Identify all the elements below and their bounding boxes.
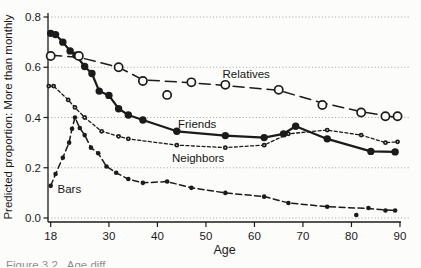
marker-relatives bbox=[318, 101, 326, 109]
marker-friends bbox=[391, 148, 398, 155]
series-label-bars: Bars bbox=[57, 183, 81, 195]
marker-friends bbox=[105, 92, 112, 99]
marker-relatives bbox=[381, 112, 389, 120]
marker-friends bbox=[81, 63, 88, 70]
series-label-friends: Friends bbox=[178, 118, 217, 130]
marker-neighbors-center bbox=[397, 141, 398, 142]
marker-bars bbox=[70, 127, 75, 132]
marker-bars bbox=[165, 179, 170, 184]
marker-neighbors-center bbox=[48, 85, 49, 86]
marker-neighbors-center bbox=[385, 142, 386, 143]
marker-friends bbox=[367, 148, 374, 155]
marker-bars bbox=[286, 201, 291, 206]
marker-bars bbox=[82, 133, 87, 138]
x-axis-title: Age bbox=[213, 243, 235, 257]
x-tick-label: 50 bbox=[200, 230, 213, 242]
y-tick-label: 0.0 bbox=[25, 212, 41, 224]
marker-bars bbox=[366, 206, 371, 211]
marker-bars bbox=[114, 170, 119, 175]
marker-relatives bbox=[139, 77, 147, 85]
marker-friends bbox=[125, 111, 132, 118]
marker-bars bbox=[89, 145, 94, 150]
marker-bars bbox=[393, 208, 398, 213]
caption-text: Figure 3.2 Age diff bbox=[6, 259, 416, 267]
marker-bars bbox=[53, 172, 58, 177]
series-label-relatives: Relatives bbox=[223, 68, 271, 80]
marker-neighbors-center bbox=[327, 129, 328, 130]
marker-relatives bbox=[115, 63, 123, 71]
marker-neighbors-center bbox=[288, 133, 289, 134]
marker-bars bbox=[73, 115, 78, 120]
x-tick-label: 90 bbox=[394, 230, 407, 242]
marker-neighbors-center bbox=[67, 99, 68, 100]
marker-neighbors-center bbox=[176, 144, 177, 145]
marker-bars bbox=[189, 186, 194, 191]
series-label-neighbors: Neighbors bbox=[172, 152, 225, 164]
marker-relatives bbox=[47, 52, 55, 60]
marker-bars bbox=[141, 181, 146, 186]
marker-bars bbox=[96, 151, 101, 156]
x-tick-label: 60 bbox=[248, 230, 261, 242]
marker-neighbors-center bbox=[101, 131, 102, 132]
age-proportion-line-chart: 0.00.20.40.60.81830405060708090AgePredic… bbox=[0, 0, 421, 260]
x-tick-label: 40 bbox=[151, 230, 164, 242]
x-tick-label: 70 bbox=[297, 230, 310, 242]
marker-neighbors-center bbox=[263, 144, 264, 145]
marker-relatives bbox=[75, 52, 83, 60]
x-tick-label: 80 bbox=[345, 230, 358, 242]
marker-bars bbox=[383, 208, 388, 213]
marker-bars bbox=[61, 155, 66, 160]
marker-friends bbox=[115, 105, 122, 112]
marker-bars bbox=[354, 213, 359, 218]
marker-relatives bbox=[357, 108, 365, 116]
marker-bars bbox=[325, 204, 330, 209]
y-tick-label: 0.8 bbox=[25, 11, 41, 23]
marker-friends bbox=[96, 87, 103, 94]
marker-friends bbox=[292, 123, 299, 130]
marker-friends bbox=[59, 38, 66, 45]
marker-bars bbox=[223, 191, 228, 196]
marker-friends bbox=[139, 116, 146, 123]
marker-bars bbox=[48, 184, 53, 189]
marker-bars bbox=[78, 126, 83, 131]
y-axis-title: Predicted proportion: More than monthly bbox=[2, 14, 14, 219]
marker-neighbors-center bbox=[360, 134, 361, 135]
marker-friends bbox=[324, 135, 331, 142]
marker-friends bbox=[52, 31, 59, 38]
marker-neighbors-center bbox=[74, 107, 75, 108]
marker-bars bbox=[126, 177, 131, 182]
marker-neighbors-center bbox=[128, 138, 129, 139]
y-tick-label: 0.6 bbox=[25, 61, 41, 73]
marker-friends bbox=[88, 70, 95, 77]
marker-bars bbox=[262, 194, 267, 199]
marker-relatives bbox=[221, 81, 229, 89]
marker-relatives bbox=[393, 112, 401, 120]
caption-fragment: Figure 3.2 Age diff bbox=[6, 259, 416, 267]
marker-friends bbox=[260, 134, 267, 141]
marker-relatives bbox=[187, 78, 195, 86]
figure-page: 0.00.20.40.60.81830405060708090AgePredic… bbox=[0, 0, 421, 268]
marker-neighbors-center bbox=[84, 117, 85, 118]
marker-relatives bbox=[275, 86, 283, 94]
marker-neighbors-center bbox=[225, 147, 226, 148]
marker-bars bbox=[67, 140, 72, 145]
y-tick-label: 0.4 bbox=[25, 112, 42, 124]
marker-friends bbox=[222, 132, 229, 139]
x-tick-label: 30 bbox=[103, 230, 116, 242]
x-tick-label: 18 bbox=[44, 230, 57, 242]
marker-neighbors-center bbox=[118, 136, 119, 137]
marker-bars bbox=[104, 164, 109, 169]
marker-relatives bbox=[163, 91, 171, 99]
marker-neighbors-center bbox=[53, 85, 54, 86]
y-tick-label: 0.2 bbox=[25, 162, 41, 174]
